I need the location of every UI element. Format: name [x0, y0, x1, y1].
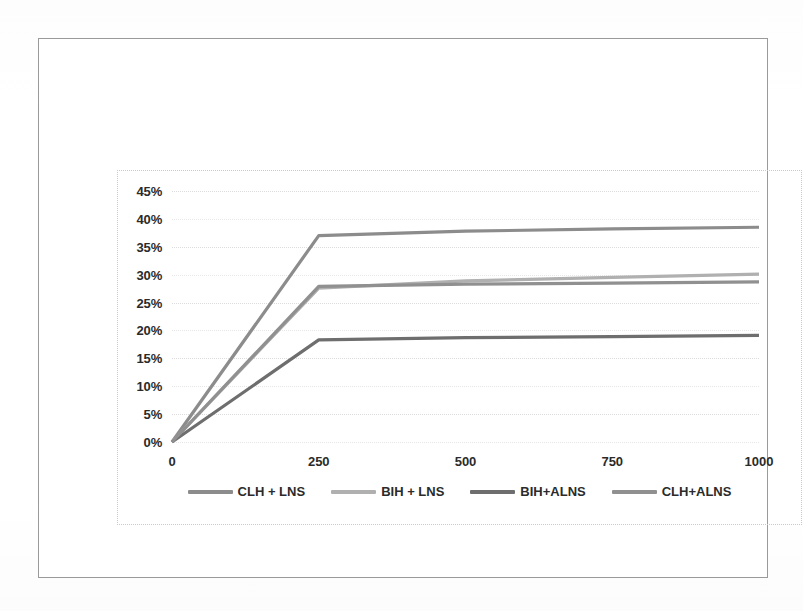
y-axis-tick: 45%: [137, 184, 162, 199]
legend-label: BIH+ALNS: [520, 485, 585, 498]
y-axis-tick: 15%: [137, 351, 162, 366]
series-lines: [172, 191, 759, 442]
y-axis-tick: 30%: [137, 267, 162, 282]
y-axis-tick: 20%: [137, 323, 162, 338]
page-background: 0%5%10%15%20%25%30%35%40%45% 02505007501…: [0, 0, 803, 611]
x-axis-tick: 0: [168, 454, 175, 469]
series-line: [172, 274, 759, 442]
legend-swatch-icon: [612, 490, 657, 494]
legend-label: BIH + LNS: [381, 485, 444, 498]
y-axis-tick: 35%: [137, 239, 162, 254]
y-axis-tick: 5%: [144, 407, 162, 422]
y-axis-tick: 25%: [137, 295, 162, 310]
y-axis-tick: 10%: [137, 379, 162, 394]
x-axis-tick: 750: [601, 454, 623, 469]
legend-item[interactable]: CLH + LNS: [188, 485, 306, 498]
legend-label: CLH + LNS: [238, 485, 306, 498]
legend-item[interactable]: CLH+ALNS: [612, 485, 732, 498]
chart-legend: CLH + LNSBIH + LNSBIH+ALNSCLH+ALNS: [117, 485, 802, 498]
legend-item[interactable]: BIH+ALNS: [470, 485, 585, 498]
series-line: [172, 282, 759, 442]
x-axis-tick: 250: [308, 454, 330, 469]
x-axis-tick: 1000: [745, 454, 774, 469]
x-axis-tick: 500: [455, 454, 477, 469]
plot-area: 0%5%10%15%20%25%30%35%40%45% 02505007501…: [172, 191, 759, 442]
legend-swatch-icon: [331, 490, 376, 494]
legend-item[interactable]: BIH + LNS: [331, 485, 444, 498]
y-axis-tick: 40%: [137, 211, 162, 226]
gridline: [172, 442, 759, 443]
y-axis-tick: 0%: [144, 435, 162, 450]
legend-label: CLH+ALNS: [662, 485, 732, 498]
legend-swatch-icon: [470, 490, 515, 494]
document-frame: 0%5%10%15%20%25%30%35%40%45% 02505007501…: [38, 38, 768, 578]
legend-swatch-icon: [188, 490, 233, 494]
